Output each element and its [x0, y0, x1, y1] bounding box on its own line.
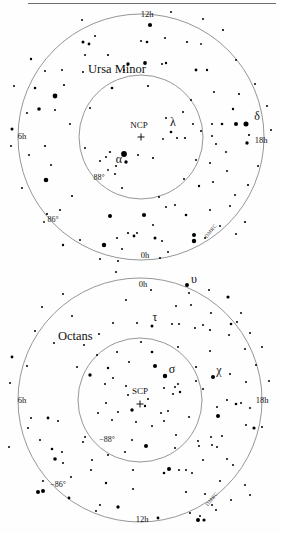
star-dot — [209, 350, 211, 352]
star-dot — [176, 137, 178, 139]
star-dot — [167, 410, 169, 412]
star-dot — [125, 299, 127, 301]
star-dot — [83, 344, 85, 346]
star-dot — [215, 143, 217, 145]
star-dot — [71, 195, 73, 197]
star-dot — [127, 394, 129, 396]
star-dot — [109, 151, 111, 153]
star-dot — [208, 289, 210, 291]
star-dot — [185, 283, 189, 287]
star-dot — [44, 178, 49, 183]
star-dot — [210, 436, 212, 438]
star-dot — [189, 512, 191, 514]
star-dot — [90, 469, 92, 471]
star-dot — [196, 518, 200, 522]
star-dot — [202, 388, 204, 390]
star-dot — [194, 327, 196, 329]
star-dot — [146, 41, 149, 44]
star-dot — [175, 305, 177, 307]
star-dot — [244, 348, 246, 350]
star-dot — [28, 154, 30, 156]
star-dot — [190, 304, 192, 306]
hour-label-0h: 0h — [141, 250, 150, 260]
star-dot — [185, 491, 187, 493]
star-dot — [51, 448, 54, 451]
star-dot — [229, 373, 231, 375]
star-dot — [112, 322, 114, 324]
star-dot — [174, 447, 176, 449]
constellation-label-octans: Octans — [58, 329, 93, 343]
star-dot — [30, 58, 32, 60]
star-dot — [235, 59, 237, 61]
star-dot — [99, 504, 101, 506]
star-dot — [228, 334, 230, 336]
star-dot — [219, 480, 221, 482]
south-declination-labels: −88°−86° — [50, 435, 115, 489]
star-dot — [99, 160, 101, 162]
constellation-label-ursa-minor: Ursa Minor — [88, 62, 147, 76]
star-dot — [76, 366, 78, 368]
star-dot — [37, 107, 41, 111]
star-dot — [53, 94, 58, 99]
star-dot — [257, 165, 259, 167]
star-dot — [144, 405, 146, 407]
star-dot — [88, 43, 91, 46]
star-dot — [186, 41, 188, 43]
star-dot — [112, 377, 114, 379]
star-dot — [204, 493, 206, 495]
star-dot — [195, 69, 198, 72]
star-dot — [159, 257, 161, 259]
star-dot — [236, 321, 238, 323]
north-labels: Ursa Minor NCP — [88, 62, 148, 130]
star-dot — [132, 488, 134, 490]
star-dot — [221, 435, 223, 437]
star-dot — [115, 271, 117, 273]
star-dot — [84, 436, 86, 438]
star-dot — [21, 187, 23, 189]
star-dot — [248, 134, 250, 136]
star-dot — [163, 420, 165, 422]
star-dot — [41, 306, 43, 308]
star-dot — [144, 444, 148, 448]
star-dot — [191, 472, 193, 474]
greek-star-label: σ — [169, 362, 176, 376]
star-dot — [182, 111, 184, 113]
star-dot — [174, 204, 176, 206]
star-dot — [117, 260, 119, 262]
star-dot — [34, 87, 37, 90]
star-dot — [211, 135, 213, 137]
star-dot — [99, 258, 101, 260]
star-dot — [213, 91, 215, 93]
star-dot — [226, 170, 228, 172]
star-dot — [211, 375, 215, 379]
star-dot — [61, 69, 63, 71]
star-dot — [185, 469, 187, 471]
star-dot — [165, 117, 167, 119]
greek-star-label: τ — [153, 310, 158, 324]
star-dot — [36, 490, 40, 494]
star-dot — [102, 243, 106, 247]
star-dot — [198, 185, 200, 187]
declination-label: 88° — [93, 173, 104, 182]
star-dot — [62, 293, 64, 295]
star-dot — [148, 23, 152, 27]
star-dot — [225, 151, 227, 153]
star-dot — [209, 162, 211, 164]
star-dot — [244, 122, 249, 127]
star-dot — [202, 518, 205, 521]
star-dot — [161, 63, 163, 65]
star-dot — [107, 367, 109, 369]
star-dot — [192, 239, 196, 243]
star-dot — [266, 105, 268, 107]
star-dot — [124, 451, 126, 453]
star-dot — [244, 221, 246, 223]
north-declination-labels: 88°86° — [47, 173, 104, 224]
star-dot — [111, 87, 114, 90]
star-dot — [41, 489, 45, 493]
north-star-labels: λαδ — [116, 109, 260, 166]
star-dot — [261, 346, 263, 348]
hour-label-6h: 6h — [18, 395, 27, 405]
star-dot — [216, 414, 220, 418]
star-dot — [27, 427, 29, 429]
star-dot — [62, 244, 64, 246]
